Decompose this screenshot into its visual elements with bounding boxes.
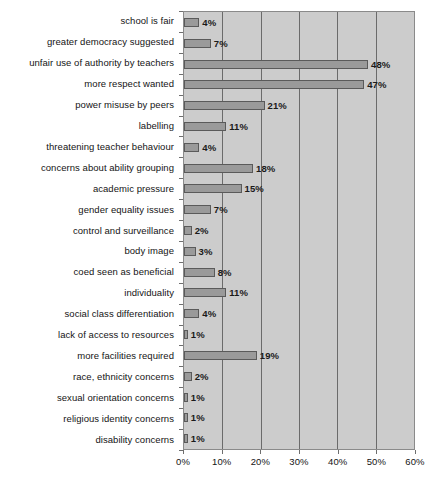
value-tick-mark <box>183 450 184 454</box>
category-label: more respect wanted <box>0 74 179 95</box>
bar <box>184 122 226 131</box>
value-tick-label: 20% <box>251 456 270 467</box>
category-label-text: lack of access to resources <box>58 330 174 340</box>
bar-row: 18% <box>184 158 414 179</box>
category-label: academic pressure <box>0 178 179 199</box>
plot-area: 4%7%48%47%21%11%4%18%15%7%2%3%8%11%4%1%1… <box>183 11 415 450</box>
value-tick-mark <box>260 450 261 454</box>
bar <box>184 143 199 152</box>
category-label-text: threatening teacher behaviour <box>46 142 174 152</box>
bar-value-label: 7% <box>214 38 228 49</box>
category-label: disability concerns <box>0 429 179 450</box>
category-label: religious identity concerns <box>0 408 179 429</box>
bar <box>184 309 199 318</box>
bar-value-label: 21% <box>268 100 287 111</box>
category-label: school is fair <box>0 11 179 32</box>
bar <box>184 434 188 443</box>
value-tick-label: 50% <box>367 456 386 467</box>
bar-row: 2% <box>184 366 414 387</box>
bar-value-label: 48% <box>371 59 390 70</box>
value-tick-label: 40% <box>328 456 347 467</box>
bar-row: 4% <box>184 137 414 158</box>
category-label: threatening teacher behaviour <box>0 136 179 157</box>
bar <box>184 184 242 193</box>
value-axis: 0%10%20%30%40%50%60% <box>183 450 415 476</box>
category-label-text: more facilities required <box>77 351 174 361</box>
category-label: gender equality issues <box>0 199 179 220</box>
category-label-text: race, ethnicity concerns <box>73 372 174 382</box>
category-label-text: more respect wanted <box>84 79 174 89</box>
bar-value-label: 1% <box>191 412 205 423</box>
bar <box>184 18 199 27</box>
bar <box>184 101 265 110</box>
value-tick-mark <box>415 450 416 454</box>
category-label-text: greater democracy suggested <box>47 37 174 47</box>
category-label: concerns about ability grouping <box>0 157 179 178</box>
category-label: labelling <box>0 116 179 137</box>
category-label-text: coed seen as beneficial <box>74 267 174 277</box>
category-label: power misuse by peers <box>0 95 179 116</box>
category-label-text: school is fair <box>121 16 175 26</box>
bar-row: 7% <box>184 199 414 220</box>
bar-row: 21% <box>184 95 414 116</box>
bar-value-label: 2% <box>195 225 209 236</box>
bar-row: 7% <box>184 33 414 54</box>
bar <box>184 413 188 422</box>
bar <box>184 39 211 48</box>
category-label: unfair use of authority by teachers <box>0 53 179 74</box>
value-tick-mark <box>222 450 223 454</box>
bar <box>184 268 215 277</box>
category-label-text: unfair use of authority by teachers <box>29 58 174 68</box>
bar-value-label: 1% <box>191 329 205 340</box>
bar <box>184 288 226 297</box>
value-tick-label: 60% <box>405 456 424 467</box>
bar-row: 1% <box>184 428 414 449</box>
bar-row: 48% <box>184 54 414 75</box>
category-label-text: concerns about ability grouping <box>41 163 174 173</box>
bar-value-label: 11% <box>229 287 248 298</box>
bar-row: 11% <box>184 283 414 304</box>
bar-row: 2% <box>184 220 414 241</box>
value-tick-mark <box>338 450 339 454</box>
value-tick-mark <box>299 450 300 454</box>
bar-value-label: 1% <box>191 433 205 444</box>
category-label: more facilities required <box>0 346 179 367</box>
category-label-text: control and surveillance <box>73 226 174 236</box>
bar-row: 4% <box>184 12 414 33</box>
bar <box>184 247 196 256</box>
category-label: coed seen as beneficial <box>0 262 179 283</box>
bar <box>184 330 188 339</box>
bar-row: 1% <box>184 407 414 428</box>
category-label: lack of access to resources <box>0 325 179 346</box>
bar-row: 3% <box>184 241 414 262</box>
bar-value-label: 18% <box>256 163 275 174</box>
category-label-text: labelling <box>139 121 174 131</box>
bars-layer: 4%7%48%47%21%11%4%18%15%7%2%3%8%11%4%1%1… <box>184 12 414 449</box>
value-tick-mark <box>376 450 377 454</box>
category-label-text: body image <box>124 246 174 256</box>
bar-row: 4% <box>184 303 414 324</box>
category-label: individuality <box>0 283 179 304</box>
category-label: body image <box>0 241 179 262</box>
bar-row: 19% <box>184 345 414 366</box>
bar-value-label: 4% <box>202 142 216 153</box>
category-label: race, ethnicity concerns <box>0 366 179 387</box>
category-label: social class differentiation <box>0 304 179 325</box>
category-label: greater democracy suggested <box>0 32 179 53</box>
category-label: sexual orientation concerns <box>0 387 179 408</box>
bar-value-label: 1% <box>191 392 205 403</box>
bar <box>184 60 368 69</box>
bar <box>184 393 188 402</box>
category-label-text: power misuse by peers <box>75 100 174 110</box>
bar <box>184 205 211 214</box>
bar-row: 8% <box>184 262 414 283</box>
bar-value-label: 11% <box>229 121 248 132</box>
bar-value-label: 4% <box>202 308 216 319</box>
bar-value-label: 15% <box>245 183 264 194</box>
category-label-text: religious identity concerns <box>63 414 174 424</box>
bar <box>184 351 257 360</box>
value-tick-label: 0% <box>176 456 190 467</box>
bar-value-label: 19% <box>260 350 279 361</box>
bar <box>184 164 253 173</box>
bar-row: 1% <box>184 324 414 345</box>
